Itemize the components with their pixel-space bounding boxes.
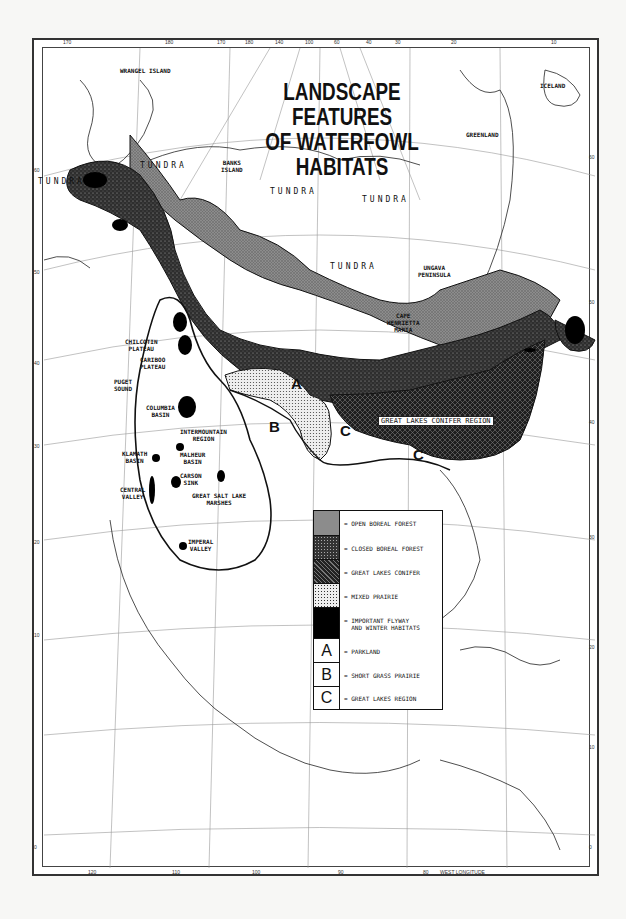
right-tick-4: 20 <box>589 645 595 650</box>
legend-label: = MIXED PRAIRIE <box>340 593 398 600</box>
legend-item-short-grass-prairie: B = SHORT GRASS PRAIRIE <box>314 663 442 687</box>
legend-item-important-flyway: = IMPORTANT FLYWAY AND WINTER HABITATS <box>314 608 442 639</box>
label-cariboo-plateau: CARIBOO PLATEAU <box>140 356 165 370</box>
legend-item-great-lakes-conifer: = GREAT LAKES CONIFER <box>314 560 442 584</box>
right-tick-2: 40 <box>589 420 595 425</box>
label-puget-sound: PUGET SOUND <box>114 378 132 392</box>
bottom-tick-4: 80 <box>423 870 429 875</box>
label-wrangel-island: WRANGEL ISLAND <box>120 67 171 74</box>
left-tick-0: 60 <box>34 168 40 173</box>
left-tick-6: 0 <box>34 845 37 850</box>
legend-label: = IMPORTANT FLYWAY AND WINTER HABITATS <box>340 617 420 631</box>
parkland-swatch-icon: A <box>314 639 340 663</box>
important-flyway-swatch-icon <box>314 608 340 639</box>
region-letter-b: B <box>269 418 280 435</box>
legend-label: = PARKLAND <box>340 648 380 655</box>
right-tick-1: 50 <box>589 300 595 305</box>
legend-label: = SHORT GRASS PRAIRIE <box>340 672 420 679</box>
region-letter-c2: C <box>413 446 424 463</box>
label-carson-sink: CARSON SINK <box>180 472 202 486</box>
tundra-label-5: TUNDRA <box>330 262 377 271</box>
legend-label: = GREAT LAKES REGION <box>340 695 416 702</box>
label-malheur-basin: MALHEUR BASIN <box>180 451 205 465</box>
right-tick-5: 10 <box>589 745 595 750</box>
label-greenland: GREENLAND <box>466 131 499 138</box>
label-chilcotin-plateau: CHILCOTIN PLATEAU <box>125 338 158 352</box>
label-columbia-basin: COLUMBIA BASIN <box>146 404 175 418</box>
left-tick-1: 50 <box>34 270 40 275</box>
left-tick-5: 10 <box>34 633 40 638</box>
legend-label: = CLOSED BOREAL FOREST <box>340 545 423 552</box>
closed-boreal-forest-swatch-icon <box>314 536 340 560</box>
label-great-salt-lake-marshes: GREAT SALT LAKE MARSHES <box>192 492 246 506</box>
label-ungava-peninsula: UNGAVA PENINSULA <box>418 264 451 278</box>
label-great-lakes-conifer-region: GREAT LAKES CONIFER REGION <box>378 416 494 426</box>
map-title-line2: OF WATERFOWL HABITATS <box>244 130 441 180</box>
top-tick-2: 170 <box>217 40 225 45</box>
left-tick-4: 20 <box>34 540 40 545</box>
top-tick-1: 180 <box>165 40 173 45</box>
legend-item-mixed-prairie: = MIXED PRAIRIE <box>314 584 442 608</box>
region-letter-a: A <box>291 375 302 392</box>
tundra-label-4: TUNDRA <box>362 195 409 204</box>
label-cape-henrietta-maria: CAPE HENRIETTA MARIA <box>387 312 420 333</box>
top-tick-5: 100 <box>305 40 313 45</box>
bottom-tick-3: 90 <box>338 870 344 875</box>
bottom-tick-0: 120 <box>88 870 96 875</box>
label-intermountain-region: INTERMOUNTAIN REGION <box>180 428 227 442</box>
legend-item-open-boreal-forest: = OPEN BOREAL FOREST <box>314 511 442 536</box>
map-title: LANDSCAPE FEATURES OF WATERFOWL HABITATS <box>244 80 441 180</box>
region-letter-c1: C <box>340 422 351 439</box>
legend: = OPEN BOREAL FOREST = CLOSED BOREAL FOR… <box>313 510 443 710</box>
short-grass-prairie-swatch-icon: B <box>314 663 340 687</box>
bottom-tick-1: 110 <box>172 870 180 875</box>
right-tick-6: 0 <box>589 845 592 850</box>
right-tick-3: 30 <box>589 535 595 540</box>
left-tick-3: 30 <box>34 444 40 449</box>
left-tick-2: 40 <box>34 361 40 366</box>
west-longitude-label: WEST LONGITUDE <box>440 870 485 875</box>
label-klamath-basin: KLAMATH BASIN <box>122 450 147 464</box>
tundra-label-3: TUNDRA <box>270 187 317 196</box>
top-tick-6: 60 <box>334 40 340 45</box>
bottom-tick-2: 100 <box>252 870 260 875</box>
tundra-label-2: TUNDRA <box>38 177 85 186</box>
mixed-prairie-swatch-icon <box>314 584 340 608</box>
top-tick-0: 170 <box>63 40 71 45</box>
label-iceland: ICELAND <box>540 82 565 89</box>
great-lakes-conifer-swatch-icon <box>314 560 340 584</box>
open-boreal-forest-swatch-icon <box>314 511 340 536</box>
top-tick-9: 20 <box>451 40 457 45</box>
top-tick-10: 10 <box>551 40 557 45</box>
legend-item-parkland: A = PARKLAND <box>314 639 442 663</box>
top-tick-7: 40 <box>366 40 372 45</box>
top-tick-8: 30 <box>395 40 401 45</box>
label-imperial-valley: IMPERAL VALLEY <box>188 538 213 552</box>
top-tick-4: 140 <box>275 40 283 45</box>
label-banks-island: BANKS ISLAND <box>221 159 243 173</box>
legend-item-closed-boreal-forest: = CLOSED BOREAL FOREST <box>314 536 442 560</box>
great-lakes-region-swatch-icon: C <box>314 687 340 709</box>
right-tick-0: 60 <box>589 155 595 160</box>
map-title-line1: LANDSCAPE FEATURES <box>244 80 441 130</box>
legend-label: = OPEN BOREAL FOREST <box>340 520 416 527</box>
top-tick-3: 180 <box>245 40 253 45</box>
legend-item-great-lakes-region: C = GREAT LAKES REGION <box>314 687 442 709</box>
label-central-valley: CENTRAL VALLEY <box>120 486 145 500</box>
tundra-label-1: TUNDRA <box>140 161 187 170</box>
legend-label: = GREAT LAKES CONIFER <box>340 569 420 576</box>
